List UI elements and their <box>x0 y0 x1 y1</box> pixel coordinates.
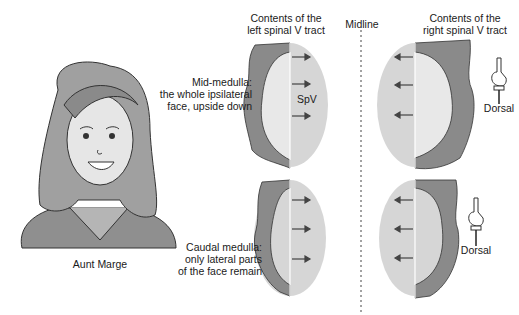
right-tract-header: Contents of the right spinal V tract <box>410 12 519 36</box>
right-tract-header-line: right spinal V tract <box>410 24 519 36</box>
left-caudal-medulla-section <box>254 180 326 296</box>
pointing-hand-icon <box>469 198 484 246</box>
portrait-caption: Aunt Marge <box>60 258 140 270</box>
right-tract-header-line: Contents of the <box>410 12 519 24</box>
left-mid-medulla-section <box>244 43 328 168</box>
mid-medulla-label-line: the whole ipsilateral <box>150 88 252 100</box>
right-mid-medulla-section <box>377 40 474 169</box>
right-caudal-medulla-section <box>379 180 459 298</box>
pointing-hand-icon <box>492 58 507 104</box>
dorsal-label: Dorsal <box>478 102 519 114</box>
spv-label: SpV <box>297 93 317 105</box>
caudal-medulla-label: Caudal medulla: only lateral parts of th… <box>170 241 262 277</box>
left-tract-header-line: Contents of the <box>232 12 340 24</box>
mid-medulla-label: Mid-medulla: the whole ipsilateral face,… <box>150 76 252 112</box>
caudal-medulla-label-line: Caudal medulla: <box>170 241 262 253</box>
mid-medulla-label-line: face, upside down <box>150 100 252 112</box>
left-tract-header-line: left spinal V tract <box>232 24 340 36</box>
dorsal-label: Dorsal <box>454 244 498 256</box>
caudal-medulla-label-line: of the face remain <box>170 265 262 277</box>
left-tract-header: Contents of the left spinal V tract <box>232 12 340 36</box>
mid-medulla-label-line: Mid-medulla: <box>150 76 252 88</box>
caudal-medulla-label-line: only lateral parts <box>170 253 262 265</box>
midline-label: Midline <box>340 18 384 30</box>
